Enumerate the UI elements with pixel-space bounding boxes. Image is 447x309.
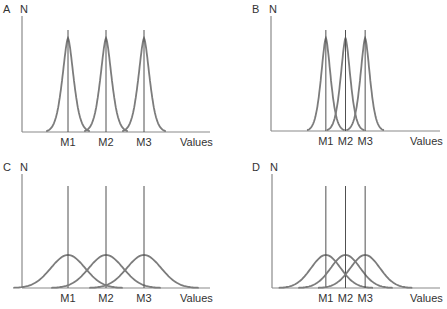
panel-a-mean-label-m3: M3 <box>136 136 151 148</box>
panel-b-y-axis-label: N <box>269 3 277 15</box>
panel-d-mean-label-m3: M3 <box>358 292 373 304</box>
panel-c-label: C <box>3 161 11 173</box>
panel-c-mean-label-m3: M3 <box>136 292 151 304</box>
panel-d-y-axis-label: N <box>270 161 278 173</box>
panel-c-mean-label-m1: M1 <box>60 292 75 304</box>
panel-c-y-axis-label: N <box>20 161 28 173</box>
panel-a-y-axis-label: N <box>20 3 28 15</box>
panel-b-label: B <box>252 3 259 15</box>
panel-b-mean-label-m1: M1 <box>318 135 333 147</box>
panel-d-mean-label-m2: M2 <box>338 292 353 304</box>
panel-d-x-axis-label: Values <box>410 292 443 304</box>
panel-b-mean-label-m2: M2 <box>338 135 353 147</box>
distribution-comparison-figure: ANValuesM1M2M3BNValuesM1M2M3CNValuesM1M2… <box>0 0 447 309</box>
panel-b-mean-label-m3: M3 <box>358 135 373 147</box>
panel-d-label: D <box>252 161 260 173</box>
panel-a-mean-label-m1: M1 <box>60 136 75 148</box>
panel-a-mean-label-m2: M2 <box>98 136 113 148</box>
panel-b-x-axis-label: Values <box>410 135 443 147</box>
panel-a-x-axis-label: Values <box>180 136 213 148</box>
panel-d-mean-label-m1: M1 <box>318 292 333 304</box>
panel-c-x-axis-label: Values <box>180 292 213 304</box>
panel-a-label: A <box>3 3 11 15</box>
panel-c-mean-label-m2: M2 <box>98 292 113 304</box>
